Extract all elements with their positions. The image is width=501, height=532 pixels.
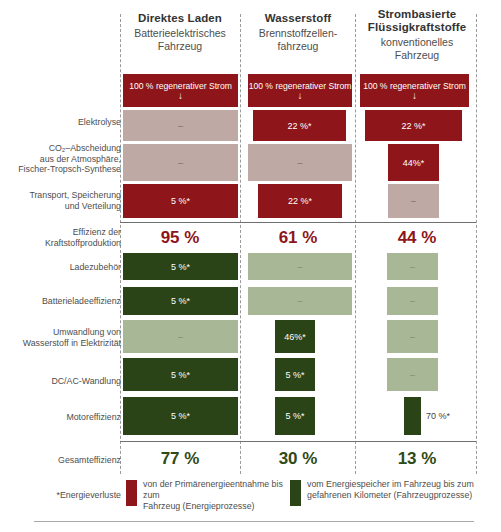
total-c2-overall: 30 % <box>243 449 353 469</box>
bar-value: – <box>410 332 415 342</box>
footer-rule <box>34 521 474 522</box>
bar-c2-ladezubehoer: – <box>248 253 352 280</box>
efficiency-comparison-chart: Direktes Laden Batterieelektrisches Fahr… <box>0 0 501 532</box>
bar-value: 46%* <box>284 332 306 342</box>
column-subtitle: konventionelles Fahrzeug <box>358 36 476 62</box>
bar-value: – <box>410 296 415 306</box>
row-label-dcac-wandlung: DC/AC-Wandlung <box>3 376 121 387</box>
legend-swatch-green <box>290 480 301 506</box>
bar-value: – <box>410 370 415 380</box>
bar-value: – <box>297 158 302 168</box>
row-label-co2-abscheidung: CO₂–Abscheidung aus der Atmosphäre, Fisc… <box>3 143 121 175</box>
bar-value: – <box>411 196 416 206</box>
bar-c2-transport: 22 %* <box>258 184 342 218</box>
column-separator-3 <box>476 14 477 474</box>
total-c2-fuel-efficiency: 61 % <box>243 228 353 248</box>
legend-swatch-red <box>126 480 137 506</box>
bar-c1-co2: – <box>123 144 238 181</box>
bar-value: – <box>297 262 302 272</box>
bar-value: 5 %* <box>171 262 190 272</box>
bar-value: 5 %* <box>171 296 190 306</box>
total-c3-fuel-efficiency: 44 % <box>358 228 476 248</box>
column-separator-1 <box>240 14 241 474</box>
row-label-gesamteffizienz: Gesamteffizienz <box>3 455 121 466</box>
bar-c2-dcac: 5 %* <box>275 358 315 391</box>
bar-c2-elektrolyse: 22 %* <box>253 110 346 141</box>
column-subtitle: Batterieelektrisches Fahrzeug <box>122 27 238 53</box>
bar-value: 44%* <box>403 158 425 168</box>
column-subtitle: Brennstoffzellen- fahrzeug <box>243 27 353 53</box>
legend-footnote: *Energieverluste <box>3 490 121 500</box>
bar-value: 5 %* <box>171 411 190 421</box>
down-arrow-icon: ↓ <box>412 92 417 100</box>
bar-value: – <box>410 262 415 272</box>
bar-value: – <box>178 158 183 168</box>
bar-value: 5 %* <box>285 411 304 421</box>
bar-c1-motoreffizienz: 5 %* <box>123 397 238 435</box>
column-header-wasserstoff: Wasserstoff Brennstoffzellen- fahrzeug <box>243 12 353 53</box>
row-label-transport: Transport, Speicherung und Verteilung <box>3 190 121 211</box>
bar-value: 22 %* <box>287 121 311 131</box>
bar-c3-umwandlung: – <box>387 320 438 353</box>
bar-value: 5 %* <box>285 370 304 380</box>
bar-c3-ladezubehoer: – <box>387 253 438 280</box>
bar-c3-motoreffizienz <box>404 397 421 435</box>
bar-c2-co2: – <box>248 144 352 181</box>
column-header-direktes-laden: Direktes Laden Batterieelektrisches Fahr… <box>122 12 238 53</box>
bar-c3-co2: 44%* <box>388 144 439 181</box>
bar-c1-batterieladeeffizienz: 5 %* <box>123 287 238 315</box>
bar-c2-source: 100 % regenerativer Strom ↓ <box>248 74 352 107</box>
bar-value: 5 %* <box>171 196 190 206</box>
column-header-strombasierte: Strombasierte Flüssigkraftstoffe konvent… <box>358 8 476 62</box>
row-label-batterieladeeffizienz: Batterieladeeffizienz <box>3 296 121 307</box>
row-label-motoreffizienz: Motoreffizienz <box>3 412 121 423</box>
row-label-ladezubehoer: Ladezubehör <box>3 262 121 273</box>
column-title: Strombasierte Flüssigkraftstoffe <box>358 8 476 34</box>
bar-c1-elektrolyse: – <box>123 110 238 141</box>
legend-label: vom Energiespeicher im Fahrzeug bis zum … <box>307 479 474 501</box>
bar-value: 5 %* <box>171 370 190 380</box>
legend-item-energy-processes: von der Primärenergieentnahme bis zum Fa… <box>126 479 301 512</box>
total-c3-overall: 13 % <box>358 449 476 469</box>
row-label-umwandlung: Umwandlung von Wasserstoff in Elektrizit… <box>3 327 121 348</box>
bar-value: 22 %* <box>401 121 425 131</box>
bar-c3-motoreffizienz-label: 70 %* <box>426 411 450 421</box>
bar-c1-transport: 5 %* <box>123 184 238 218</box>
bar-c2-umwandlung: 46%* <box>275 320 315 353</box>
bar-c1-umwandlung: – <box>123 320 238 353</box>
bar-c3-transport: – <box>388 184 439 218</box>
column-separator-2 <box>355 14 356 474</box>
bar-value: 22 %* <box>288 196 312 206</box>
bar-c1-ladezubehoer: 5 %* <box>123 253 238 280</box>
down-arrow-icon: ↓ <box>178 92 183 100</box>
down-arrow-icon: ↓ <box>298 92 303 100</box>
row-label-elektrolyse: Elektrolyse <box>3 117 121 128</box>
bar-c3-batterieladeeffizienz: – <box>387 287 438 315</box>
bar-c3-source: 100 % regenerativer Strom ↓ <box>360 74 469 107</box>
row-label-effizienz-kraftstoffproduktion: Effizienz der Kraftstoffproduktion <box>3 227 121 248</box>
total-c1-overall: 77 % <box>122 449 238 469</box>
bar-c3-elektrolyse: 22 %* <box>365 110 462 141</box>
bar-c3-dcac: – <box>387 358 438 391</box>
rule-fuel-efficiency <box>120 222 476 223</box>
bar-value: – <box>297 296 302 306</box>
legend-item-vehicle-processes: vom Energiespeicher im Fahrzeug bis zum … <box>290 479 490 506</box>
bar-c1-dcac: 5 %* <box>123 358 238 391</box>
bar-value: – <box>178 332 183 342</box>
bar-value: – <box>178 121 183 131</box>
column-title: Wasserstoff <box>243 12 353 25</box>
bar-c2-batterieladeeffizienz: – <box>248 287 352 315</box>
rule-total-efficiency <box>120 441 476 442</box>
total-c1-fuel-efficiency: 95 % <box>122 228 238 248</box>
column-title: Direktes Laden <box>122 12 238 25</box>
bar-c2-motoreffizienz: 5 %* <box>275 397 315 435</box>
legend-label: von der Primärenergieentnahme bis zum Fa… <box>143 479 301 512</box>
bar-c1-source: 100 % regenerativer Strom ↓ <box>123 74 238 107</box>
